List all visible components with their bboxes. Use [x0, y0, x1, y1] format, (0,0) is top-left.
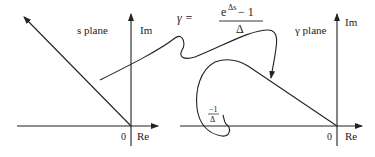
- s-imag-label: Im: [140, 24, 153, 36]
- formula-denominator: Δ: [236, 22, 244, 36]
- gamma-imag-label: Im: [345, 16, 358, 28]
- s-origin-label: 0: [121, 131, 126, 142]
- point-minus-one-over-delta: −1 Δ: [208, 105, 219, 124]
- mapping-arrow: [100, 30, 277, 80]
- formula-numerator-rest: − 1: [238, 5, 254, 19]
- s-real-label: Re: [137, 130, 149, 142]
- formula-numerator-base: e: [221, 5, 226, 19]
- gamma-real-label: Re: [345, 130, 357, 142]
- formula-numerator-exp: Δs: [228, 3, 236, 12]
- mapping-formula: γ = e Δs − 1 Δ: [177, 3, 263, 36]
- point-label-numerator: −1: [209, 105, 218, 114]
- formula-lhs: γ =: [177, 11, 193, 25]
- gamma-boundary-image: [197, 60, 337, 136]
- gamma-plane: γ plane Im Re 0 −1 Δ: [180, 14, 362, 146]
- s-plane: s plane Im Re 0: [17, 14, 158, 146]
- diagram-canvas: s plane Im Re 0 γ = e Δs − 1 Δ γ plane I…: [0, 0, 375, 157]
- s-plane-title: s plane: [77, 24, 108, 36]
- gamma-plane-title: γ plane: [294, 24, 327, 36]
- point-label-denominator: Δ: [210, 115, 215, 124]
- gamma-origin-label: 0: [327, 131, 332, 142]
